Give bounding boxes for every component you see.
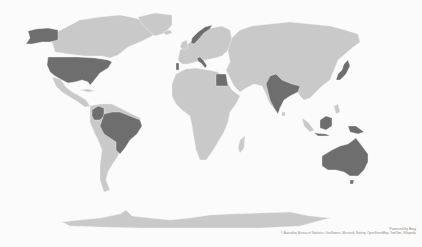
europe (163, 25, 232, 70)
japan[interactable] (336, 60, 350, 80)
sri-lanka[interactable] (282, 112, 285, 116)
egypt[interactable] (216, 74, 228, 86)
sumatra[interactable] (302, 118, 314, 132)
africa-base[interactable] (172, 68, 240, 160)
filled-map[interactable]: Powered by Bing © Australian Bureau of S… (0, 0, 422, 247)
map-attribution: Powered by Bing © Australian Bureau of S… (281, 227, 416, 235)
antarctica-west[interactable] (62, 210, 330, 228)
tasmania[interactable] (350, 180, 354, 184)
southeast-asia-oceania (302, 104, 368, 184)
madagascar[interactable] (238, 136, 245, 153)
java[interactable] (314, 133, 330, 136)
uk-ireland[interactable] (180, 40, 188, 50)
papua-new-guinea[interactable] (348, 126, 364, 134)
australia[interactable] (322, 138, 368, 176)
portugal[interactable] (176, 63, 179, 70)
borneo[interactable] (320, 116, 332, 130)
south-america (90, 104, 142, 192)
asia (226, 22, 360, 116)
antarctica (62, 210, 330, 228)
world-map-canvas[interactable] (0, 0, 422, 247)
asia-base[interactable] (226, 22, 360, 108)
copyright-text: © Australian Bureau of Statistics, GeoNa… (281, 231, 416, 235)
philippines[interactable] (334, 104, 340, 114)
caribbean-cuba[interactable] (80, 89, 95, 92)
